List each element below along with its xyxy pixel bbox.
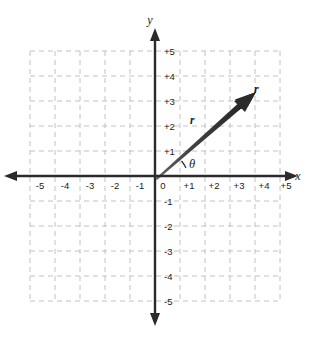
x-tick-neg1: -1 [136, 180, 144, 191]
y-tick-pos2: +2 [164, 121, 175, 132]
x-tick-pos4: +4 [259, 180, 270, 191]
y-tick-neg2: -2 [164, 221, 172, 232]
x-tick-neg4: -4 [61, 180, 69, 191]
y-tick-pos1: +1 [164, 146, 175, 157]
vector-label-head: r [254, 82, 259, 96]
x-tick-pos5: +5 [281, 180, 292, 191]
y-tick-neg3: -3 [164, 246, 172, 257]
coordinate-plane-figure: x y -5 -4 -3 -2 -1 +1 +2 +3 +4 +5 0 +5 +… [0, 0, 312, 338]
x-tick-pos2: +2 [209, 180, 220, 191]
plot-canvas: x y -5 -4 -3 -2 -1 +1 +2 +3 +4 +5 0 +5 +… [0, 0, 312, 338]
y-tick-pos4: +4 [164, 71, 175, 82]
x-tick-neg5: -5 [36, 180, 44, 191]
angle-label-theta: θ [189, 157, 195, 171]
y-tick-neg1: -1 [164, 196, 172, 207]
x-axis-name-label: x [294, 169, 301, 183]
vector-label-midpoint: r [190, 114, 195, 126]
x-tick-neg2: -2 [111, 180, 119, 191]
y-axis-name-label: y [146, 13, 153, 27]
x-tick-neg3: -3 [86, 180, 94, 191]
y-tick-neg5: -5 [164, 296, 172, 307]
y-tick-pos5: +5 [164, 46, 175, 57]
x-tick-pos1: +1 [184, 180, 195, 191]
x-tick-pos3: +3 [234, 180, 245, 191]
y-tick-pos3: +3 [164, 96, 175, 107]
y-tick-neg4: -4 [164, 271, 172, 282]
origin-label: 0 [160, 180, 165, 191]
